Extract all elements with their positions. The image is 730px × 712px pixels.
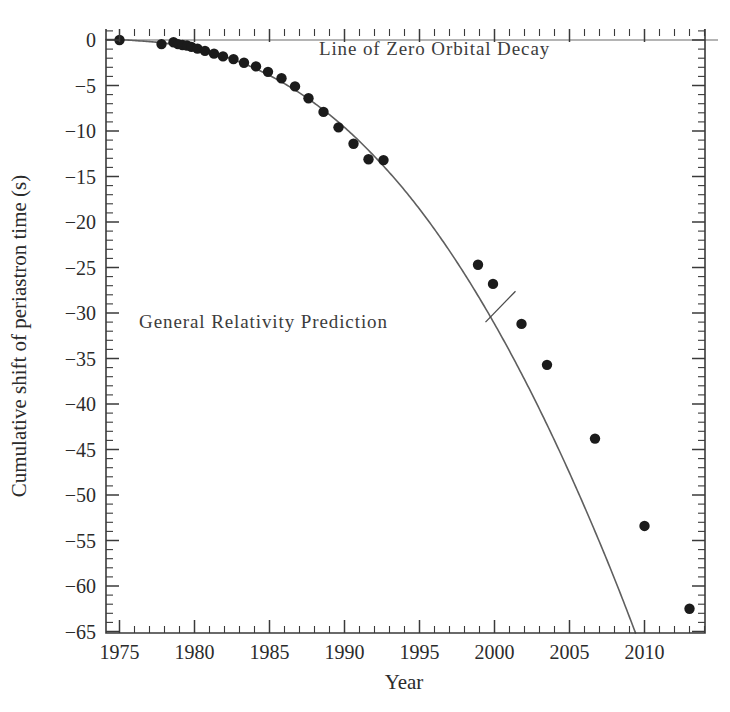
x-tick-label-2010: 2010	[625, 641, 665, 663]
data-point-marker	[251, 61, 261, 71]
y-tick-label-neg10: −10	[65, 120, 96, 142]
x-tick-label-1985: 1985	[250, 641, 290, 663]
data-point-marker	[639, 521, 649, 531]
y-tick-label-neg5: −5	[75, 75, 96, 97]
data-point-marker	[363, 154, 373, 164]
data-point-marker	[209, 48, 219, 58]
data-point-marker	[590, 433, 600, 443]
chart-background	[0, 0, 730, 712]
y-tick-label-neg45: −45	[65, 439, 96, 461]
data-point-marker	[516, 319, 526, 329]
y-axis-title: Cumulative shift of periastron time (s)	[7, 175, 31, 498]
data-point-marker	[318, 107, 328, 117]
chart-figure: 19751980198519901995200020052010 0−5−10−…	[0, 0, 730, 712]
annotation-zero-orbital-decay: Line of Zero Orbital Decay	[319, 38, 550, 59]
y-tick-label-neg50: −50	[65, 484, 96, 506]
data-point-marker	[684, 604, 694, 614]
y-tick-label-neg35: −35	[65, 348, 96, 370]
data-point-marker	[276, 73, 286, 83]
y-tick-label-0: 0	[86, 29, 96, 51]
data-point-marker	[290, 81, 300, 91]
x-tick-label-1975: 1975	[100, 641, 140, 663]
y-tick-label-neg15: −15	[65, 166, 96, 188]
data-point-marker	[218, 51, 228, 61]
annotation-general-relativity-prediction: General Relativity Prediction	[139, 311, 388, 332]
y-tick-label-neg60: −60	[65, 575, 96, 597]
x-axis-title: Year	[385, 670, 424, 694]
data-point-marker	[239, 58, 249, 68]
x-tick-label-2000: 2000	[475, 641, 515, 663]
data-point-marker	[303, 93, 313, 103]
y-tick-label-neg55: −55	[65, 530, 96, 552]
data-point-marker	[488, 279, 498, 289]
y-tick-label-neg65: −65	[65, 621, 96, 643]
y-tick-label-neg25: −25	[65, 257, 96, 279]
data-point-marker	[263, 67, 273, 77]
periastron-shift-chart: 19751980198519901995200020052010 0−5−10−…	[0, 0, 730, 712]
y-tick-label-neg40: −40	[65, 393, 96, 415]
data-point-marker	[378, 155, 388, 165]
data-point-marker	[200, 46, 210, 56]
x-tick-label-1980: 1980	[175, 641, 215, 663]
data-point-marker	[473, 260, 483, 270]
x-tick-label-1995: 1995	[400, 641, 440, 663]
x-tick-label-1990: 1990	[325, 641, 365, 663]
data-point-marker	[156, 39, 166, 49]
x-tick-label-2005: 2005	[550, 641, 590, 663]
y-tick-label-neg30: −30	[65, 302, 96, 324]
data-point-marker	[348, 139, 358, 149]
data-point-marker	[333, 122, 343, 132]
data-point-marker	[542, 360, 552, 370]
data-point-marker	[228, 54, 238, 64]
y-tick-label-neg20: −20	[65, 211, 96, 233]
